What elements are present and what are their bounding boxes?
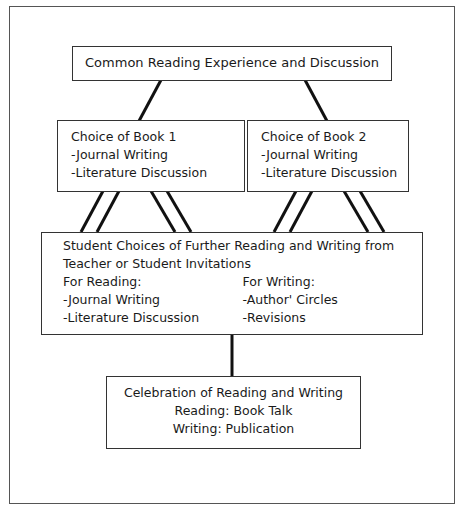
writing-item: -Revisions <box>243 309 423 327</box>
celebration-box: Celebration of Reading and Writing Readi… <box>106 376 361 449</box>
celebration-title: Celebration of Reading and Writing <box>107 384 360 402</box>
writing-item: -Author' Circles <box>243 291 423 309</box>
writing-column: For Writing: -Author' Circles -Revisions <box>243 273 423 327</box>
book1-box: Choice of Book 1 -Journal Writing -Liter… <box>57 120 245 192</box>
celebration-reading: Reading: Book Talk <box>107 402 360 420</box>
reading-item: -Literature Discussion <box>63 309 243 327</box>
book2-title: Choice of Book 2 <box>261 128 408 146</box>
connector-top-book2 <box>305 80 327 121</box>
book1-item: -Journal Writing <box>71 146 244 164</box>
book1-item: -Literature Discussion <box>71 164 244 182</box>
choices-title-line2: Teacher or Student Invitations <box>63 255 422 273</box>
book2-item: -Literature Discussion <box>261 164 408 182</box>
book2-box: Choice of Book 2 -Journal Writing -Liter… <box>247 120 409 192</box>
celebration-writing: Writing: Publication <box>107 420 360 438</box>
common-reading-label: Common Reading Experience and Discussion <box>73 54 391 72</box>
reading-heading: For Reading: <box>63 273 243 291</box>
choices-columns: For Reading: -Journal Writing -Literatur… <box>63 273 422 327</box>
reading-item: -Journal Writing <box>63 291 243 309</box>
book2-item: -Journal Writing <box>261 146 408 164</box>
choices-title-line1: Student Choices of Further Reading and W… <box>63 237 422 255</box>
writing-heading: For Writing: <box>243 273 423 291</box>
reading-column: For Reading: -Journal Writing -Literatur… <box>63 273 243 327</box>
common-reading-box: Common Reading Experience and Discussion <box>72 46 392 81</box>
book1-title: Choice of Book 1 <box>71 128 244 146</box>
connector-top-book1 <box>139 80 161 121</box>
student-choices-box: Student Choices of Further Reading and W… <box>41 232 423 335</box>
